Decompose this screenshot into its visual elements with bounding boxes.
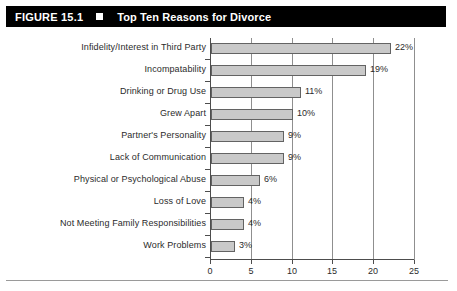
- bar-value-label: 19%: [370, 64, 388, 74]
- bar-value-label: 22%: [395, 42, 413, 52]
- category-label: Lack of Communication: [110, 152, 206, 162]
- bar: [211, 241, 235, 252]
- category-label: Partner's Personality: [121, 130, 206, 140]
- bar-row: Grew Apart10%: [0, 104, 457, 126]
- figure-container: FIGURE 15.1 Top Ten Reasons for Divorce …: [0, 0, 457, 291]
- category-label: Loss of Love: [154, 196, 206, 206]
- bar: [211, 65, 366, 76]
- x-axis-tick: [210, 260, 211, 264]
- x-axis-tick-label: 25: [404, 266, 424, 276]
- figure-header-bar: FIGURE 15.1 Top Ten Reasons for Divorce: [6, 6, 446, 27]
- bar: [211, 197, 244, 208]
- bar-row: Physical or Psychological Abuse6%: [0, 170, 457, 192]
- bar-value-label: 3%: [239, 240, 252, 250]
- bar-row: Lack of Communication9%: [0, 148, 457, 170]
- bar-row: Infidelity/Interest in Third Party22%: [0, 38, 457, 60]
- category-label: Incompatability: [144, 64, 206, 74]
- bar: [211, 153, 284, 164]
- bar: [211, 175, 260, 186]
- bar-row: Incompatability19%: [0, 60, 457, 82]
- bar: [211, 109, 293, 120]
- x-axis-line: [210, 259, 414, 260]
- x-axis-tick-label: 15: [322, 266, 342, 276]
- bar-row: Work Problems3%: [0, 236, 457, 258]
- category-label: Physical or Psychological Abuse: [74, 174, 206, 184]
- x-axis-tick: [292, 260, 293, 264]
- bar: [211, 87, 301, 98]
- bar-row: Loss of Love4%: [0, 192, 457, 214]
- figure-title: Top Ten Reasons for Divorce: [117, 11, 271, 23]
- bar-row: Not Meeting Family Responsibilities4%: [0, 214, 457, 236]
- bar-value-label: 6%: [264, 174, 277, 184]
- category-label: Drinking or Drug Use: [120, 86, 206, 96]
- x-axis-tick-label: 20: [363, 266, 383, 276]
- x-axis-tick: [332, 260, 333, 264]
- x-axis-tick: [373, 260, 374, 264]
- y-axis-tick: [205, 257, 210, 258]
- bar-row: Drinking or Drug Use11%: [0, 82, 457, 104]
- bar: [211, 131, 284, 142]
- x-axis-tick: [251, 260, 252, 264]
- x-axis-tick-label: 5: [241, 266, 261, 276]
- x-axis-tick: [414, 260, 415, 264]
- figure-number-label: FIGURE 15.1: [15, 11, 83, 23]
- bar-value-label: 10%: [297, 108, 315, 118]
- bar-value-label: 9%: [288, 130, 301, 140]
- filled-square-icon: [96, 13, 103, 20]
- bar-value-label: 9%: [288, 152, 301, 162]
- figure-bottom-rule: [6, 280, 448, 281]
- bar-value-label: 4%: [248, 196, 261, 206]
- category-label: Not Meeting Family Responsibilities: [60, 218, 206, 228]
- category-label: Grew Apart: [160, 108, 206, 118]
- bar-value-label: 11%: [305, 86, 322, 96]
- x-axis-tick-label: 10: [282, 266, 302, 276]
- category-label: Work Problems: [143, 240, 206, 250]
- x-axis-tick-label: 0: [200, 266, 220, 276]
- bar: [211, 43, 391, 54]
- bar: [211, 219, 244, 230]
- bar-value-label: 4%: [248, 218, 261, 228]
- bar-chart-plot-area: Infidelity/Interest in Third Party22%Inc…: [0, 38, 457, 268]
- category-label: Infidelity/Interest in Third Party: [81, 42, 206, 52]
- bar-row: Partner's Personality9%: [0, 126, 457, 148]
